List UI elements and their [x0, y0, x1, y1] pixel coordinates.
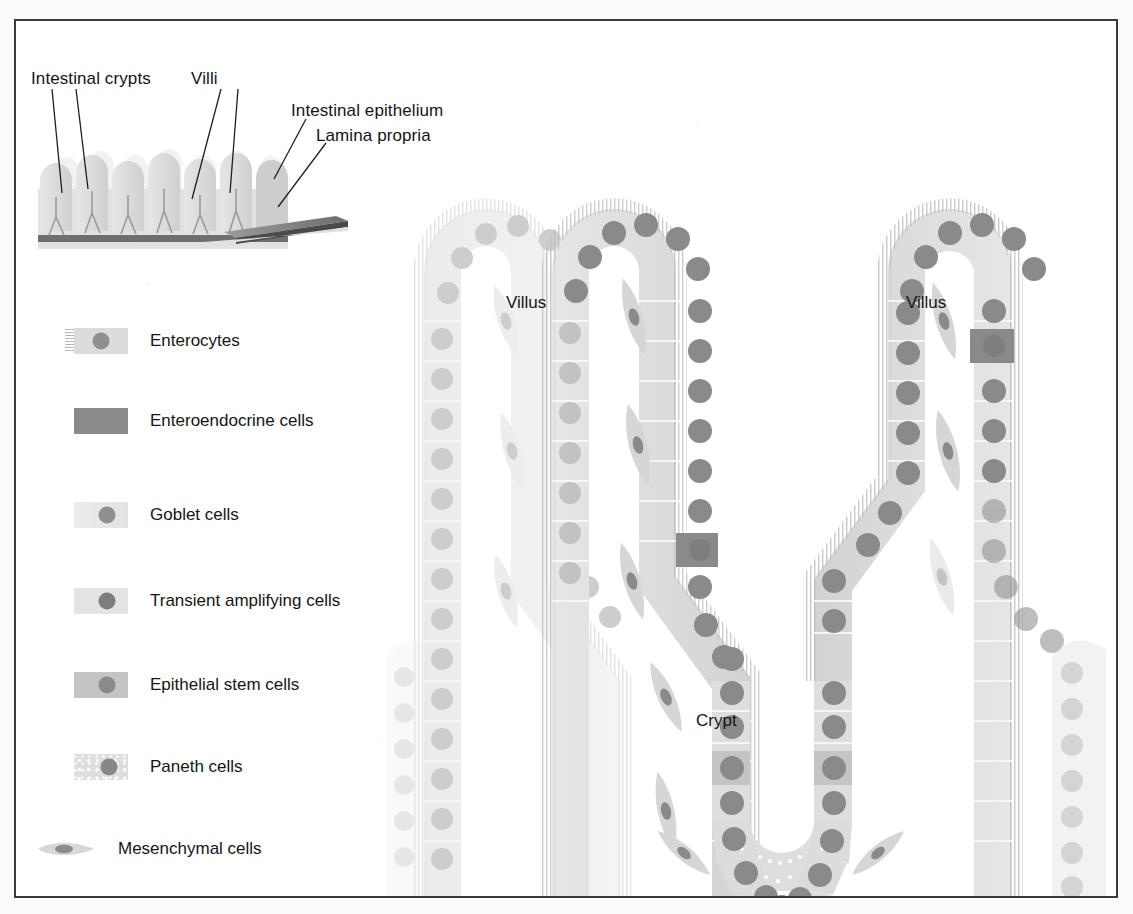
crypt-structure [653, 647, 909, 898]
legend-item-paneth[interactable]: Paneth cells [74, 747, 243, 787]
inset-label-intestinal-crypts: Intestinal crypts [31, 69, 151, 89]
nuclei-column-center-inner [688, 299, 712, 523]
swatch-enteroendocrine [74, 408, 128, 434]
enteroendocrine-cell-right [970, 329, 1014, 363]
swatch-enterocytes [74, 328, 128, 354]
legend-item-transient-amplifying[interactable]: Transient amplifying cells [74, 581, 340, 621]
villus-right-structure [810, 205, 1106, 898]
legend-item-mesenchymal[interactable]: Mesenchymal cells [36, 829, 262, 869]
villus-left-far-limb [386, 640, 424, 898]
swatch-paneth [74, 754, 128, 780]
nuclei-column-right-inner [822, 301, 920, 633]
legend-item-epithelial-stem[interactable]: Epithelial stem cells [74, 665, 299, 705]
legend-label-paneth: Paneth cells [150, 757, 243, 777]
enteroendocrine-cell-left [676, 533, 718, 567]
swatch-mesenchymal [36, 838, 96, 860]
legend-label-goblet: Goblet cells [150, 505, 239, 525]
diagram-label-villus-right: Villus [906, 293, 946, 313]
diagram-label-crypt: Crypt [696, 711, 737, 731]
villus-crypt-diagram: Villus Crypt Villus [366, 21, 1118, 898]
legend-label-enterocytes: Enterocytes [150, 331, 240, 351]
legend-item-enteroendocrine[interactable]: Enteroendocrine cells [74, 401, 313, 441]
figure-frame: Intestinal crypts Villi Intestinal epith… [14, 19, 1118, 898]
mesenchymal-cells-right [923, 280, 967, 617]
legend-item-goblet[interactable]: Goblet cells [74, 495, 239, 535]
villus-right-far-limb [1052, 640, 1106, 898]
diagram-label-villus-left: Villus [506, 293, 546, 313]
legend-label-mesenchymal: Mesenchymal cells [118, 839, 262, 859]
inset-label-villi: Villi [191, 69, 218, 89]
epithelium-svg [366, 21, 1118, 898]
legend-label-enteroendocrine: Enteroendocrine cells [150, 411, 313, 431]
legend-label-transient-amplifying: Transient amplifying cells [150, 591, 340, 611]
swatch-goblet [74, 502, 128, 528]
swatch-epithelial-stem [74, 672, 128, 698]
legend-item-enterocytes[interactable]: Enterocytes [74, 321, 240, 361]
swatch-transient-amplifying [74, 588, 128, 614]
legend-label-epithelial-stem: Epithelial stem cells [150, 675, 299, 695]
